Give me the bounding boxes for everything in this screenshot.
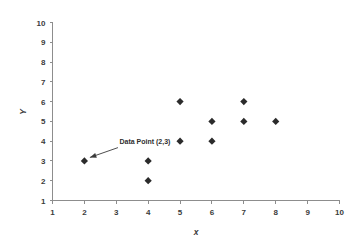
x-tick-label: 4 [146,208,151,217]
scatter-chart: 12345678910 12345678910 Data Point (2,3)… [0,0,360,247]
y-tick-label: 3 [41,157,46,166]
annotation-arrow-icon [90,153,97,158]
y-tick-label: 4 [41,137,46,146]
plot-area: 12345678910 12345678910 Data Point (2,3)… [0,0,360,247]
data-point [240,98,247,105]
annotations: Data Point (2,3) [90,138,171,158]
annotation-label: Data Point (2,3) [119,138,170,146]
x-tick-label: 7 [242,208,247,217]
data-markers [81,98,280,184]
y-tick-label: 10 [37,19,46,28]
x-tick-label: 9 [305,208,310,217]
data-point [272,118,279,125]
data-point [240,118,247,125]
y-tick-label: 8 [41,58,46,67]
y-tick-label: 1 [41,197,46,206]
x-axis: 12345678910 [50,201,344,217]
data-point [176,98,183,105]
y-tick-label: 2 [41,177,46,186]
x-tick-label: 5 [178,208,183,217]
data-point [208,138,215,145]
x-tick-label: 6 [210,208,215,217]
x-tick-label: 1 [50,208,55,217]
y-axis: 12345678910 [37,19,53,206]
data-point [208,118,215,125]
data-point [145,177,152,184]
x-tick-label: 8 [273,208,278,217]
data-point [176,138,183,145]
y-axis-title: Y [18,108,28,115]
x-axis-title: x [193,227,200,237]
y-tick-label: 5 [41,117,46,126]
x-tick-label: 3 [114,208,119,217]
y-tick-label: 7 [41,78,46,87]
x-tick-label: 10 [335,208,344,217]
y-tick-label: 9 [41,38,46,47]
data-point [145,157,152,164]
x-tick-label: 2 [82,208,87,217]
y-tick-label: 6 [41,98,46,107]
data-point [81,157,88,164]
